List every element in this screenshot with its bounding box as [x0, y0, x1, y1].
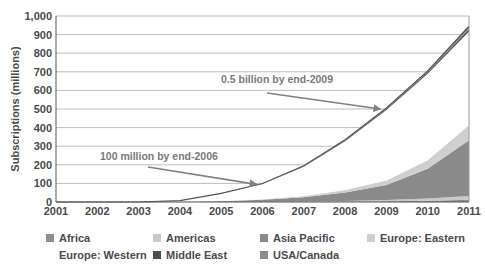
area-series	[56, 26, 469, 202]
y-tick-label: 900	[34, 29, 52, 41]
x-tick-label: 2010	[415, 205, 439, 217]
x-tick-label: 2003	[126, 205, 150, 217]
y-tick-label: 400	[34, 122, 52, 134]
annotation-label: 100 million by end-2006	[100, 150, 218, 162]
y-axis-label: Subscriptions (millions)	[9, 46, 21, 172]
legend-row-2: Europe: Western Middle East USA/Canada	[46, 246, 476, 263]
y-tick-label: 800	[34, 47, 52, 59]
legend-item-africa: Africa	[46, 232, 153, 244]
x-tick-label: 2009	[374, 205, 398, 217]
legend-label: Middle East	[166, 249, 227, 261]
legend-label: Americas	[166, 232, 216, 244]
annotation-label: 0.5 billion by end-2009	[221, 73, 333, 85]
y-tick-labels: 01002003004005006007008009001,000	[24, 10, 52, 208]
x-tick-label: 2007	[292, 205, 316, 217]
x-tick-label: 2005	[209, 205, 233, 217]
legend-swatch-middle-east	[153, 251, 161, 259]
legend-label: Africa	[59, 232, 90, 244]
y-tick-label: 500	[34, 103, 52, 115]
legend-label: USA/Canada	[273, 249, 339, 261]
x-tick-label: 2001	[44, 205, 68, 217]
legend-item-americas: Americas	[153, 232, 260, 244]
legend: Africa Americas Asia Pacific Europe: Eas…	[46, 229, 476, 263]
x-tick-label: 2006	[250, 205, 274, 217]
legend-swatch-europe-eastern	[367, 234, 375, 242]
legend-swatch-americas	[153, 234, 161, 242]
y-tick-label: 100	[34, 177, 52, 189]
x-tick-labels: 2001200220032004200520062007200820092010…	[44, 205, 481, 217]
legend-swatch-europe-western	[46, 251, 54, 259]
legend-item-usa-canada: USA/Canada	[260, 249, 367, 261]
legend-row-1: Africa Americas Asia Pacific Europe: Eas…	[46, 229, 476, 246]
y-tick-label: 700	[34, 66, 52, 78]
legend-swatch-asia-pacific	[260, 234, 268, 242]
y-tick-label: 600	[34, 84, 52, 96]
legend-label: Europe: Western	[59, 249, 147, 261]
legend-label: Asia Pacific	[273, 232, 335, 244]
x-tick-label: 2008	[333, 205, 357, 217]
x-tick-label: 2004	[168, 205, 193, 217]
annotation-arrow	[267, 93, 380, 109]
y-tick-label: 200	[34, 159, 52, 171]
legend-swatch-africa	[46, 234, 54, 242]
legend-item-middle-east: Middle East	[153, 249, 260, 261]
y-tick-label: 300	[34, 140, 52, 152]
x-tick-label: 2002	[85, 205, 109, 217]
legend-item-europe-western: Europe: Western	[46, 249, 153, 261]
legend-item-asia-pacific: Asia Pacific	[260, 232, 367, 244]
legend-swatch-usa-canada	[260, 251, 268, 259]
legend-item-europe-eastern: Europe: Eastern	[367, 232, 465, 244]
y-tick-label: 1,000	[24, 10, 52, 22]
legend-label: Europe: Eastern	[380, 232, 465, 244]
x-tick-label: 2011	[457, 205, 481, 217]
annotation-arrow	[148, 167, 257, 184]
